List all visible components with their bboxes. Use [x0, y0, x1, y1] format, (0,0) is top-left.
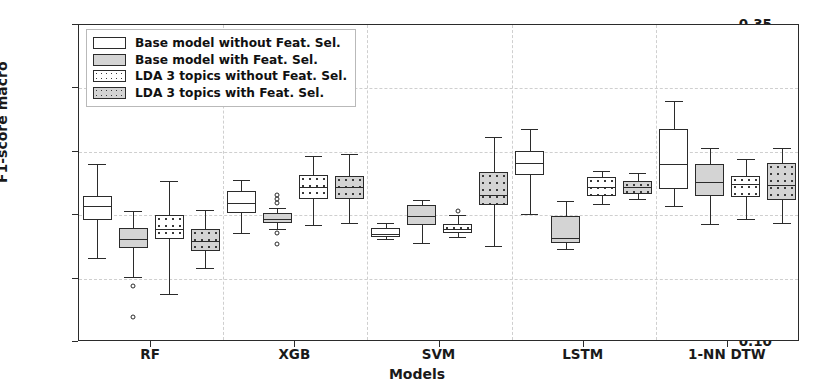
whisker-lower — [313, 199, 314, 226]
whisker-lower — [674, 189, 675, 207]
legend-swatch — [93, 37, 126, 49]
median-line — [767, 185, 796, 186]
cap-upper — [593, 171, 610, 172]
legend-label: LDA 3 topics with Feat. Sel. — [135, 86, 324, 100]
dot-hatch-pattern — [768, 164, 795, 199]
cap-upper — [413, 200, 430, 201]
gridline-horizontal — [79, 215, 798, 216]
boxplot-box — [119, 228, 148, 248]
cap-lower — [521, 214, 538, 215]
x-axis-label: Models — [0, 366, 834, 382]
median-line — [83, 206, 112, 207]
boxplot-figure: F1-score macro Models 0.100.150.200.250.… — [0, 0, 834, 392]
boxplot-box — [767, 163, 796, 200]
boxplot-box — [371, 228, 400, 237]
legend-item[interactable]: Base model with Feat. Sel. — [93, 52, 347, 69]
cap-lower — [557, 249, 574, 250]
cap-lower — [485, 246, 502, 247]
outlier-point — [455, 209, 460, 214]
whisker-upper — [746, 159, 747, 175]
median-line — [155, 229, 184, 230]
median-line — [515, 163, 544, 164]
cap-lower — [124, 277, 141, 278]
whisker-upper — [566, 201, 567, 216]
cap-lower — [160, 294, 177, 295]
whisker-upper — [313, 156, 314, 175]
outlier-point — [275, 200, 280, 205]
whisker-upper — [530, 129, 531, 151]
median-line — [335, 187, 364, 188]
boxplot-box — [551, 216, 580, 243]
x-tick-label: RF — [140, 346, 160, 362]
cap-lower — [701, 224, 718, 225]
cap-upper — [629, 173, 646, 174]
cap-upper — [557, 201, 574, 202]
median-line — [695, 182, 724, 183]
boxplot-box — [659, 129, 688, 189]
median-line — [623, 187, 652, 188]
dot-hatch-pattern — [480, 173, 507, 204]
gridline-horizontal — [79, 279, 798, 280]
boxplot-box — [479, 172, 508, 205]
boxplot-box — [263, 213, 292, 223]
whisker-lower — [746, 197, 747, 219]
cap-upper — [341, 154, 358, 155]
median-line — [119, 239, 148, 240]
cap-upper — [449, 215, 466, 216]
cap-upper — [737, 159, 754, 160]
cap-upper — [88, 164, 105, 165]
whisker-upper — [710, 148, 711, 164]
gridline-vertical — [512, 25, 513, 340]
x-tick-label: 1-NN DTW — [688, 346, 766, 362]
legend-item[interactable]: Base model without Feat. Sel. — [93, 35, 347, 52]
x-tick-mark — [150, 341, 151, 347]
legend-item[interactable]: LDA 3 topics without Feat. Sel. — [93, 68, 347, 85]
cap-lower — [593, 204, 610, 205]
outlier-point — [275, 230, 280, 235]
median-line — [299, 187, 328, 188]
cap-lower — [305, 225, 322, 226]
whisker-lower — [710, 196, 711, 224]
median-line — [407, 216, 436, 217]
cap-lower — [449, 237, 466, 238]
y-tick-mark — [72, 341, 78, 342]
boxplot-box — [155, 215, 184, 239]
x-tick-mark — [583, 341, 584, 347]
whisker-lower — [205, 251, 206, 269]
cap-upper — [485, 137, 502, 138]
dot-hatch-pattern — [94, 88, 125, 98]
outlier-point — [275, 242, 280, 247]
gridline-vertical — [656, 25, 657, 340]
whisker-lower — [97, 220, 98, 258]
x-tick-mark — [294, 341, 295, 347]
outlier-point — [131, 284, 136, 289]
legend-swatch — [93, 87, 126, 99]
median-line — [227, 203, 256, 204]
x-tick-mark — [439, 341, 440, 347]
median-line — [659, 164, 688, 165]
outlier-point — [131, 314, 136, 319]
whisker-upper — [494, 137, 495, 173]
whisker-upper — [674, 101, 675, 129]
cap-upper — [305, 156, 322, 157]
whisker-upper — [97, 164, 98, 196]
boxplot-box — [695, 164, 724, 196]
cap-upper — [665, 101, 682, 102]
boxplot-box — [731, 176, 760, 198]
median-line — [371, 234, 400, 235]
legend-label: Base model without Feat. Sel. — [135, 36, 341, 50]
whisker-upper — [133, 211, 134, 227]
cap-lower — [196, 268, 213, 269]
cap-lower — [629, 199, 646, 200]
cap-lower — [88, 258, 105, 259]
cap-upper — [269, 208, 286, 209]
legend-item[interactable]: LDA 3 topics with Feat. Sel. — [93, 85, 347, 102]
cap-upper — [377, 223, 394, 224]
median-line — [191, 241, 220, 242]
whisker-lower — [133, 248, 134, 277]
legend-swatch — [93, 54, 126, 66]
gridline-horizontal — [79, 152, 798, 153]
cap-upper — [701, 148, 718, 149]
whisker-upper — [638, 173, 639, 181]
gridline-vertical — [367, 25, 368, 340]
